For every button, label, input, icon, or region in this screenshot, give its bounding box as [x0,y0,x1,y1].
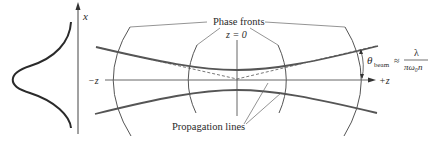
phase-front-inner-left [188,45,197,113]
propagation-leader [244,83,268,124]
propagation-lines-label: Propagation lines [172,121,245,132]
profile-panel: x [13,2,88,134]
beam-envelope-bottom [95,90,377,114]
asymptote-dashed [100,46,376,79]
z-zero-label: z = 0 [225,29,247,40]
phase-front-inner-right [278,45,286,113]
theta-symbol: θ [367,54,373,66]
leader-line [250,28,278,45]
neg-z-label: −z [88,75,99,86]
gaussian-profile-curve [13,22,71,128]
beam-panel: −z +z Phase fronts z = 0 Propagation lin… [88,16,428,136]
phase-front-outer-left [113,27,131,136]
approx-sign: ≈ [394,55,400,66]
propagation-leader [246,93,281,124]
phase-front-outer-right [344,27,361,136]
x-axis-arrow-icon [76,2,81,10]
x-axis-label: x [82,10,88,22]
formula-denominator: πω₀n [404,62,423,72]
theta-subscript: beam [374,61,390,69]
gaussian-beam-diagram: x −z +z Phase fronts z = 0 Propagation l… [0,0,428,143]
leader-line [265,22,345,27]
leader-line [130,22,207,27]
formula-numerator: λ [414,47,419,58]
z-axis-arrow-icon [368,78,376,83]
phase-fronts-label: Phase fronts [213,16,265,27]
pos-z-label: +z [379,75,390,86]
theta-arrow-down-icon [360,74,364,79]
leader-line [197,28,220,45]
